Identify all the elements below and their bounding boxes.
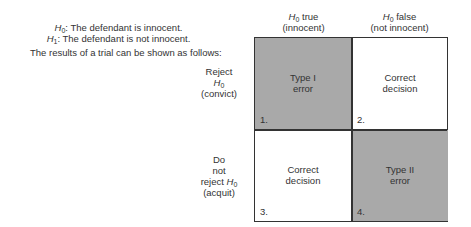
intro-text: The results of a trial can be shown as f… <box>30 47 222 58</box>
row2-line1: Do <box>189 154 249 165</box>
row2-line3: reject <box>201 176 227 187</box>
row-header-do-not-reject: Do not reject H0 (acquit) <box>189 154 249 198</box>
column-header-h0-false: H0 false (not innocent) <box>351 11 448 33</box>
col1-sublabel: (innocent) <box>255 22 352 33</box>
cell-type-i-error: Type Ierror 1. <box>255 38 351 129</box>
cell-correct-decision-1: Correctdecision 2. <box>352 38 448 129</box>
cell-type-ii-error: Type IIerror 4. <box>352 130 448 221</box>
alternative-hypothesis: H1: The defendant is not innocent. <box>0 33 237 44</box>
row1-line1: Reject <box>189 66 249 77</box>
horizontal-divider <box>255 129 447 131</box>
col2-text: false <box>394 11 417 22</box>
cell4-line1: Type II <box>352 164 448 175</box>
row1-sublabel: (convict) <box>189 88 249 99</box>
cell-correct-decision-2: Correctdecision 3. <box>255 130 351 221</box>
cell2-number: 2. <box>357 114 365 125</box>
cell4-line2: error <box>352 175 448 186</box>
column-header-h0-true: H0 true (innocent) <box>255 11 352 33</box>
row2-line2: not <box>189 165 249 176</box>
row2-sublabel: (acquit) <box>189 187 249 198</box>
col2-sublabel: (not innocent) <box>351 22 448 33</box>
row-header-reject: Reject H0 (convict) <box>189 66 249 99</box>
cell4-number: 4. <box>357 206 365 217</box>
h1-symbol: H <box>47 33 54 44</box>
h0-text: : The defendant is innocent. <box>65 22 182 33</box>
col2-symbol: H <box>383 11 390 22</box>
cell2-line2: decision <box>352 83 448 94</box>
cell3-line2: decision <box>255 175 351 186</box>
cell1-line2: error <box>255 83 351 94</box>
cell1-line1: Type I <box>255 72 351 83</box>
col1-text: true <box>299 11 318 22</box>
null-hypothesis: H0: The defendant is innocent. <box>0 22 237 33</box>
cell3-number: 3. <box>260 206 268 217</box>
cell3-line1: Correct <box>255 164 351 175</box>
h1-text: : The defendant is not innocent. <box>57 33 190 44</box>
cell1-number: 1. <box>260 114 268 125</box>
cell2-line1: Correct <box>352 72 448 83</box>
outcome-matrix: Type Ierror 1. Correctdecision 2. Correc… <box>254 37 448 222</box>
